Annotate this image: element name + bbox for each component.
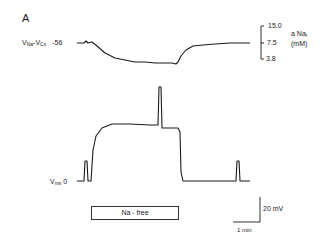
scale-bar bbox=[233, 197, 260, 222]
tick-15: 15.0 bbox=[268, 22, 282, 29]
axis-title-ana: a Na bbox=[291, 30, 306, 37]
bottom-trace bbox=[77, 87, 250, 181]
tick-7-5: 7.5 bbox=[267, 39, 277, 46]
na-free-bar: Na - free bbox=[91, 206, 179, 220]
axis-unit: (mM) bbox=[291, 40, 307, 47]
tick-3-8: 3.8 bbox=[266, 55, 276, 62]
right-axis bbox=[261, 26, 264, 59]
scale-horizontal-label: 1 min bbox=[237, 227, 252, 233]
scale-vertical-label: 20 mV bbox=[263, 205, 283, 212]
axis-title-sub: i bbox=[306, 32, 307, 38]
top-trace bbox=[77, 41, 250, 64]
axis-title: a Nai bbox=[291, 30, 307, 38]
